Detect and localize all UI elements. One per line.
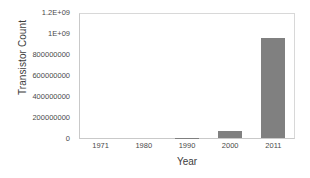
bar-chart: Transistor Count 1.2E+09 1E+09 800000000…	[0, 0, 310, 178]
bar-slot	[208, 14, 251, 138]
x-axis-tick-label: 1990	[165, 141, 208, 150]
bar-2000	[218, 131, 242, 138]
bar-slot	[166, 14, 209, 138]
x-axis-tick-label: 1980	[122, 141, 165, 150]
y-axis-tick-label: 800000000	[12, 51, 70, 59]
bar-slot	[123, 14, 166, 138]
bar-slot	[251, 14, 294, 138]
x-axis-title: Year	[79, 156, 295, 167]
x-axis-tick-label: 2011	[252, 141, 295, 150]
bar-2011	[261, 38, 285, 138]
y-axis-tick-label: 200000000	[12, 114, 70, 122]
x-axis-tick-labels: 1971 1980 1990 2000 2011	[79, 141, 295, 150]
x-axis-tick-label: 1971	[79, 141, 122, 150]
y-axis-tick-label: 1E+09	[12, 30, 70, 38]
y-axis-tick-label: 600000000	[12, 72, 70, 80]
y-axis-tick-labels: 1.2E+09 1E+09 800000000 600000000 400000…	[16, 13, 74, 139]
y-axis-tick-label: 0	[12, 135, 70, 143]
x-axis-tick-label: 2000	[209, 141, 252, 150]
bar-series	[80, 14, 294, 138]
y-axis-tick-label: 1.2E+09	[12, 9, 70, 17]
y-axis-tick-label: 400000000	[12, 93, 70, 101]
bar-slot	[80, 14, 123, 138]
plot-area	[79, 13, 295, 139]
